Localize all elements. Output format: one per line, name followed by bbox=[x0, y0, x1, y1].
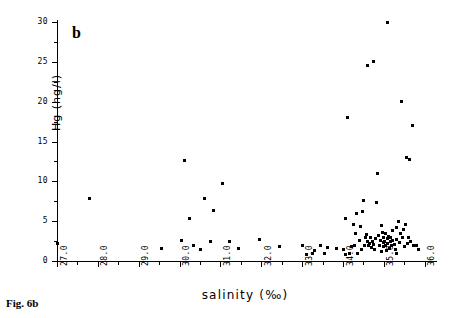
data-point bbox=[374, 237, 377, 240]
data-point bbox=[203, 197, 206, 200]
y-tick-label: 5 bbox=[26, 217, 48, 225]
data-point bbox=[376, 172, 379, 175]
data-point bbox=[415, 244, 418, 247]
data-point bbox=[344, 217, 347, 220]
x-axis-line bbox=[56, 261, 437, 262]
data-point bbox=[183, 159, 186, 162]
data-point bbox=[380, 250, 383, 253]
x-tick-major bbox=[98, 261, 99, 267]
x-tick-minor bbox=[241, 261, 242, 265]
data-point bbox=[365, 233, 368, 236]
data-point bbox=[393, 243, 396, 246]
figure-6b: 051015202530 27.028.029.030.031.032.033.… bbox=[0, 0, 452, 318]
data-point bbox=[352, 223, 355, 226]
data-point bbox=[398, 241, 401, 244]
data-point bbox=[395, 226, 398, 229]
data-point bbox=[319, 244, 322, 247]
data-point bbox=[354, 232, 357, 235]
data-point bbox=[356, 252, 359, 255]
data-point bbox=[363, 244, 366, 247]
figure-caption: Fig. 6b bbox=[6, 297, 38, 309]
data-point bbox=[335, 247, 338, 250]
data-point bbox=[209, 240, 212, 243]
data-point bbox=[380, 224, 383, 227]
data-point bbox=[366, 64, 369, 67]
data-point bbox=[375, 201, 378, 204]
x-tick-minor bbox=[159, 261, 160, 265]
data-point bbox=[369, 236, 372, 239]
data-point bbox=[258, 238, 261, 241]
x-tick-major bbox=[220, 261, 221, 267]
data-point bbox=[361, 210, 364, 213]
y-axis-title: Hg (ng/l) bbox=[50, 43, 63, 163]
scatter-plot-area bbox=[57, 22, 437, 261]
data-point bbox=[401, 236, 404, 239]
data-point bbox=[344, 253, 347, 256]
data-point bbox=[323, 252, 326, 255]
data-point bbox=[407, 236, 410, 239]
data-point bbox=[212, 209, 215, 212]
x-tick-major bbox=[425, 261, 426, 267]
data-point bbox=[400, 100, 403, 103]
data-point bbox=[348, 252, 351, 255]
data-point bbox=[397, 220, 400, 223]
data-point bbox=[342, 248, 345, 251]
x-tick-minor bbox=[200, 261, 201, 265]
data-point bbox=[313, 249, 316, 252]
data-point bbox=[56, 242, 59, 245]
x-tick-major bbox=[343, 261, 344, 267]
data-point bbox=[372, 60, 375, 63]
data-point bbox=[377, 234, 380, 237]
data-point bbox=[305, 253, 308, 256]
data-point bbox=[372, 243, 375, 246]
data-point bbox=[188, 217, 191, 220]
data-point bbox=[391, 239, 394, 242]
x-tick-major bbox=[261, 261, 262, 267]
data-point bbox=[399, 232, 402, 235]
x-tick-minor bbox=[77, 261, 78, 265]
data-point bbox=[360, 248, 363, 251]
data-point bbox=[355, 212, 358, 215]
data-point bbox=[362, 199, 365, 202]
y-tick-label: 0 bbox=[26, 257, 48, 265]
x-tick-minor bbox=[118, 261, 119, 265]
data-point bbox=[221, 182, 224, 185]
data-point bbox=[160, 247, 163, 250]
data-point bbox=[346, 116, 349, 119]
data-point bbox=[395, 252, 398, 255]
data-point bbox=[192, 244, 195, 247]
data-point bbox=[228, 240, 231, 243]
data-point bbox=[391, 229, 394, 232]
x-tick-major bbox=[139, 261, 140, 267]
y-tick-label: 30 bbox=[26, 18, 48, 26]
data-point bbox=[373, 248, 376, 251]
y-tick-label: 25 bbox=[26, 58, 48, 66]
data-point bbox=[402, 228, 405, 231]
x-tick-major bbox=[384, 261, 385, 267]
y-tick-label: 20 bbox=[26, 98, 48, 106]
y-tick-label: 15 bbox=[26, 138, 48, 146]
x-axis-title: salinity (‰) bbox=[120, 288, 370, 302]
data-point bbox=[408, 158, 411, 161]
x-tick-minor bbox=[282, 261, 283, 265]
y-axis-tick-labels: 051015202530 bbox=[22, 0, 48, 318]
data-point bbox=[359, 225, 362, 228]
x-tick-minor bbox=[323, 261, 324, 265]
y-tick-label: 10 bbox=[26, 177, 48, 185]
data-point bbox=[404, 223, 407, 226]
x-tick-minor bbox=[404, 261, 405, 265]
data-point bbox=[353, 244, 356, 247]
data-point bbox=[403, 245, 406, 248]
data-point bbox=[199, 248, 202, 251]
data-point bbox=[417, 248, 420, 251]
x-tick-major bbox=[302, 261, 303, 267]
data-point bbox=[326, 246, 329, 249]
data-point bbox=[409, 240, 412, 243]
panel-label: b bbox=[72, 24, 81, 42]
data-point bbox=[394, 248, 397, 251]
x-tick-major bbox=[57, 261, 58, 267]
x-tick-minor bbox=[363, 261, 364, 265]
x-tick-major bbox=[180, 261, 181, 267]
data-point bbox=[237, 247, 240, 250]
data-point bbox=[301, 244, 304, 247]
